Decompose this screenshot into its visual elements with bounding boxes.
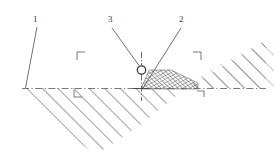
soil-mass-lower	[22, 88, 186, 155]
technical-diagram-figure: 1 3 2	[0, 0, 275, 165]
bracket-upper-right-icon	[193, 52, 201, 60]
callout-label-1: 1	[33, 15, 38, 24]
diagram-canvas	[0, 0, 275, 165]
leader-line-1	[26, 27, 38, 88]
bracket-lower-right-icon	[197, 91, 204, 97]
callout-label-3: 3	[108, 15, 113, 24]
soil-mass-right-upper	[196, 40, 274, 88]
callout-label-2: 2	[179, 15, 184, 24]
stress-wedge-hatch-b	[141, 70, 198, 89]
leader-line-3	[112, 28, 139, 66]
stress-wedge-region	[141, 70, 198, 89]
load-point-circle-icon	[137, 66, 145, 74]
bracket-upper-left-icon	[77, 52, 85, 60]
soil-mass-region	[22, 40, 274, 155]
